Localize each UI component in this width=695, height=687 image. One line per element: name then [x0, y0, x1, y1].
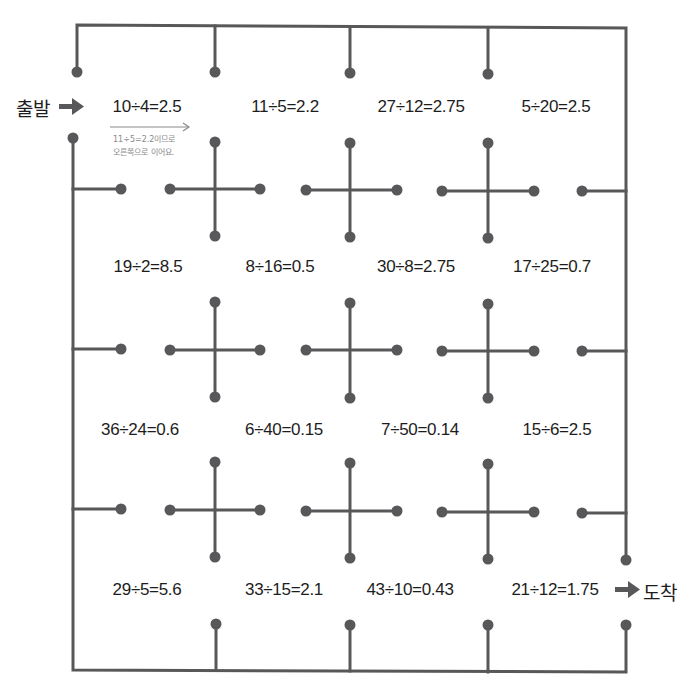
equation-r3-c3: 7÷50=0.14: [381, 420, 459, 440]
equation-r1-c2: 11÷5=2.2: [251, 97, 319, 117]
hint-line-2: 오른쪽으로 이어요.: [113, 146, 175, 159]
equation-r3-c2: 6÷40=0.15: [245, 420, 323, 440]
equation-r1-c3: 27÷12=2.75: [377, 97, 464, 117]
hint-line-1: 11÷5=2.2이므로: [113, 133, 175, 146]
equation-r3-c4: 15÷6=2.5: [523, 420, 592, 440]
equation-r1-c4: 5÷20=2.5: [522, 97, 591, 117]
equation-r1-c1: 10÷4=2.5: [113, 97, 182, 117]
start-arrow-icon: [59, 98, 84, 115]
equation-r2-c4: 17÷25=0.7: [513, 257, 591, 277]
start-label: 출발: [16, 94, 50, 121]
equation-r4-c4: 21÷12=1.75: [511, 580, 598, 600]
end-label: 도착: [643, 578, 677, 605]
end-arrow-icon: [615, 581, 640, 598]
equation-r3-c1: 36÷24=0.6: [101, 420, 179, 440]
equation-r4-c1: 29÷5=5.6: [113, 580, 182, 600]
equation-r2-c2: 8÷16=0.5: [246, 257, 315, 277]
hint-arrow: [110, 123, 189, 131]
equation-r4-c3: 43÷10=0.43: [366, 580, 453, 600]
equation-r2-c3: 30÷8=2.75: [377, 257, 455, 277]
hint-note: 11÷5=2.2이므로 오른쪽으로 이어요.: [113, 133, 175, 159]
equation-r4-c2: 33÷15=2.1: [245, 580, 323, 600]
equation-r2-c1: 19÷2=8.5: [114, 257, 183, 277]
